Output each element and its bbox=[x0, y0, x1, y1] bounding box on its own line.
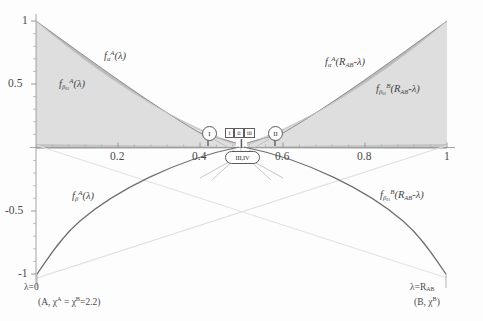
marker-region-III-IV[interactable]: III,IV bbox=[225, 151, 260, 164]
y-tick-label--1: -1 bbox=[18, 268, 28, 280]
series-label-beta-B-right: fβ01B(RAB-λ) bbox=[376, 84, 420, 95]
x-tick-label-0.6: 0.6 bbox=[275, 151, 289, 163]
annotation-lambda-rab: λ=RAB bbox=[410, 283, 434, 293]
x-tick-label-0.4: 0.4 bbox=[192, 151, 206, 163]
annotation-lambda-zero: λ=0 bbox=[24, 283, 39, 293]
x-tick-label-0.2: 0.2 bbox=[110, 151, 124, 163]
marker-box-ii[interactable]: ii bbox=[234, 128, 244, 138]
series-label-alpha-A: fαA(λ) bbox=[104, 51, 126, 62]
y-tick-label-0.5: 0.5 bbox=[8, 78, 22, 90]
annotation-species-B: (B, χB) bbox=[414, 298, 440, 308]
series-label-alpha-A-right: fαA(RAB-λ) bbox=[325, 57, 365, 68]
y-tick-label-1: 1 bbox=[22, 15, 28, 27]
curve-beta-A-lower bbox=[37, 147, 239, 274]
series-label-beta-A-lower: fβA(λ) bbox=[72, 191, 94, 202]
annotation-species-A: (A, χA = χB=2.2) bbox=[38, 298, 100, 308]
series-label-beta-A: fβ01A(λ) bbox=[59, 79, 85, 90]
x-tick-label-0.8: 0.8 bbox=[357, 151, 371, 163]
marker-region-I[interactable]: I bbox=[202, 126, 217, 141]
marker-box-iii[interactable]: iii bbox=[244, 128, 255, 138]
chart-figure: 1 0.5 -0.5 -1 0.2 0.4 0.6 0.8 1 fαA(λ) f… bbox=[0, 0, 483, 321]
marker-region-II[interactable]: II bbox=[268, 126, 283, 141]
marker-box-i[interactable]: i bbox=[225, 128, 234, 138]
series-label-beta-B-lower: fβ01B(RAB-λ) bbox=[380, 190, 424, 201]
y-tick-label--0.5: -0.5 bbox=[5, 205, 23, 217]
curve-beta-B-lower bbox=[244, 147, 446, 274]
x-tick-label-1: 1 bbox=[444, 151, 450, 163]
